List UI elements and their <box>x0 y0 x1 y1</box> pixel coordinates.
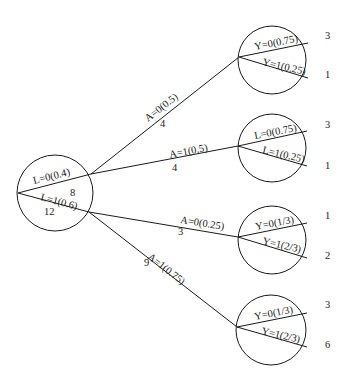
root-circle <box>17 155 93 231</box>
leaf-1-top-count: 3 <box>325 30 330 41</box>
leaf-1-bottom-count: 1 <box>325 69 330 80</box>
edge-a0-upper-count: 4 <box>160 118 166 129</box>
leaf-3-bottom-count: 2 <box>325 250 330 261</box>
leaf-node-2: L=0(0.75) L=1(0.25) 3 1 <box>238 114 330 182</box>
root-node: L=0(0.4) 8 L=1(0.6) 12 <box>17 155 93 231</box>
edge-a1-upper-count: 4 <box>172 162 178 173</box>
leaf-2-top-count: 3 <box>325 119 330 130</box>
leaf-node-1: Y=0(0.75) Y=1(0.25) 3 1 <box>238 26 330 94</box>
edge-a0-lower-label: A=0(0.25) <box>180 214 226 233</box>
edge-a0-upper <box>91 57 239 174</box>
leaf-node-4: Y=0(1/3) Y=1(2/3) 3 6 <box>236 295 330 365</box>
leaf-3-top-count: 1 <box>325 210 330 221</box>
leaf-node-3: Y=0(1/3) Y=1(2/3) 1 2 <box>238 206 330 274</box>
leaf-2-bottom-count: 1 <box>325 160 330 171</box>
edge-a1-lower-label: A=1(0.75) <box>145 251 188 288</box>
edge-a1-upper-label: A=1(0.5) <box>168 142 209 161</box>
edge-a1-lower-count: 9 <box>144 257 149 268</box>
decision-tree-diagram: L=0(0.4) 8 L=1(0.6) 12 A=0(0.5) 4 A=1(0.… <box>0 0 347 381</box>
edge-a1-upper <box>91 146 238 174</box>
edge-a0-lower-count: 3 <box>178 226 183 237</box>
leaf-4-bottom-count: 6 <box>325 339 330 350</box>
root-branch-l1-count: 12 <box>44 206 55 217</box>
root-branch-l0-count: 8 <box>70 187 75 198</box>
leaf-4-top-count: 3 <box>325 299 330 310</box>
